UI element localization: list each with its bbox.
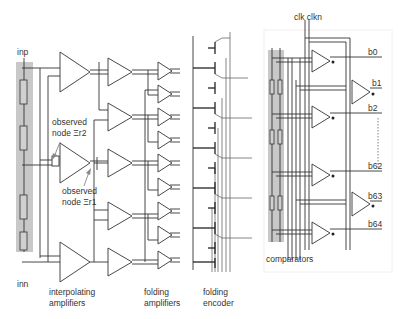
amplifier-icon: [158, 85, 172, 103]
observed-text: observed: [62, 186, 97, 197]
output-b0: b0: [368, 47, 377, 57]
output-b62: b62: [368, 161, 382, 171]
amplifier-icon: [108, 58, 132, 86]
clock-label: clk clkn: [294, 12, 322, 22]
amplifier-icon: [60, 242, 90, 282]
caption-line: folding: [144, 287, 180, 298]
interpolating-amplifier-stage2: [108, 58, 132, 276]
amplifier-icon: [158, 131, 172, 149]
amplifier-icon: [158, 108, 172, 126]
interpolating-amplifier-stage1: [40, 52, 90, 282]
output-b2: b2: [368, 103, 377, 113]
amplifier-icon: [158, 226, 172, 244]
amplifier-icon: [158, 62, 172, 80]
amplifier-icon: [108, 149, 132, 177]
amplifier-icon: [108, 103, 132, 131]
observed-text: observed: [52, 117, 87, 128]
folding-amplifiers: [158, 62, 180, 269]
amplifier-icon: [60, 52, 90, 92]
folding-encoder-label: folding encoder: [203, 287, 234, 308]
interpolation-wires: [90, 62, 108, 262]
comparator-icon: [312, 106, 330, 128]
comparator-icon: [352, 80, 370, 104]
amplifier-icon: [158, 251, 172, 269]
arrow-head-icon: [86, 168, 91, 175]
comparators-label: comparators: [266, 254, 313, 264]
caption-line: amplifiers: [49, 298, 95, 309]
arrow-head-icon: [52, 153, 57, 160]
node-text: node Ξr2: [52, 128, 87, 139]
comparator-icon: [312, 222, 330, 244]
amplifier-icon: [158, 178, 172, 196]
amplifier-icon: [158, 202, 172, 220]
output-b1: b1: [372, 78, 381, 88]
caption-line: interpolating: [49, 287, 95, 298]
inn-label: inn: [17, 279, 28, 289]
folding-amplifier-wires: [132, 70, 158, 264]
circuit-diagram: [0, 0, 400, 319]
observed-node-r1-label: observed node Ξr1: [62, 186, 97, 207]
caption-line: folding: [203, 287, 234, 298]
node-text: node Ξr1: [62, 197, 97, 208]
amplifier-icon: [158, 154, 172, 172]
amplifier-icon: [108, 202, 132, 230]
comparator-array: [268, 20, 382, 260]
comparator-icon: [312, 50, 330, 72]
amplifier-icon: [60, 143, 90, 183]
interpolating-amplifiers-label: interpolating amplifiers: [49, 287, 95, 308]
output-b64: b64: [368, 219, 382, 229]
caption-line: amplifiers: [144, 298, 180, 309]
observed-node-r2-label: observed node Ξr2: [52, 117, 87, 138]
folding-encoder: [193, 32, 252, 272]
output-b63: b63: [368, 191, 382, 201]
folding-amplifiers-label: folding amplifiers: [144, 287, 180, 308]
amplifier-icon: [108, 248, 132, 276]
comparator-icon: [312, 164, 330, 186]
caption-line: encoder: [203, 298, 234, 309]
inp-label: inp: [17, 47, 28, 57]
